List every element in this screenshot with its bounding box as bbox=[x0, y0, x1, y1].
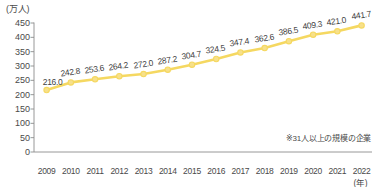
data-point-marker bbox=[214, 56, 219, 61]
x-tick-label: 2015 bbox=[183, 166, 201, 176]
x-tick-label: 2022 bbox=[353, 166, 371, 176]
chart-annotation-note: ※31人以上の規模の企業 bbox=[286, 132, 371, 143]
data-point-marker bbox=[189, 62, 194, 67]
x-tick-label: 2016 bbox=[207, 166, 225, 176]
x-tick-label: 2020 bbox=[304, 166, 322, 176]
data-point-marker bbox=[335, 29, 340, 34]
line-chart: (万人) 050100150200250300350400450 2009201… bbox=[0, 0, 382, 187]
data-point-marker bbox=[286, 39, 291, 44]
data-point-marker bbox=[359, 23, 364, 28]
data-point-marker bbox=[310, 32, 315, 37]
x-tick-label: 2017 bbox=[232, 166, 250, 176]
data-point-marker bbox=[68, 80, 73, 85]
x-tick-label: 2011 bbox=[87, 166, 104, 176]
data-point-marker bbox=[141, 71, 146, 76]
data-point-marker bbox=[92, 77, 97, 82]
x-tick-label: 2021 bbox=[328, 166, 346, 176]
x-tick-label: 2012 bbox=[110, 166, 128, 176]
x-tick-label: 2010 bbox=[62, 166, 80, 176]
data-point-marker bbox=[44, 87, 49, 92]
data-point-marker bbox=[165, 67, 170, 72]
data-point-label: 216.0 bbox=[43, 77, 63, 87]
x-tick-label: 2018 bbox=[256, 166, 274, 176]
x-tick-label: 2019 bbox=[280, 166, 298, 176]
data-point-marker bbox=[262, 45, 267, 50]
x-tick-label: 2013 bbox=[135, 166, 153, 176]
data-point-marker bbox=[238, 50, 243, 55]
data-point-marker bbox=[117, 74, 122, 79]
x-tick-label: 2009 bbox=[38, 166, 56, 176]
x-tick-label: 2014 bbox=[159, 166, 177, 176]
x-axis-unit-label: (年) bbox=[354, 176, 368, 187]
plot-area bbox=[0, 0, 382, 187]
